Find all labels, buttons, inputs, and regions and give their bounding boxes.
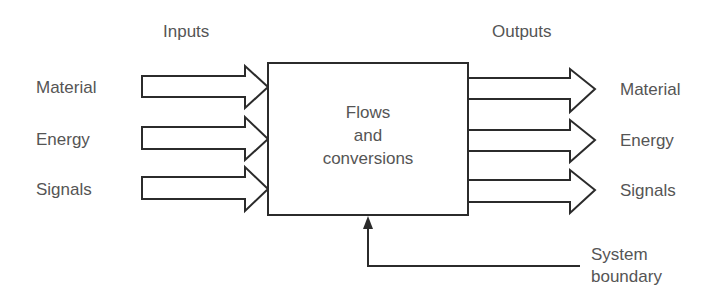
input-arrow-signals-icon bbox=[142, 167, 268, 211]
output-arrow-signals-icon bbox=[462, 170, 595, 213]
boundary-label-line-2: boundary bbox=[591, 267, 662, 286]
boundary-arrowhead-icon bbox=[363, 216, 373, 229]
boundary-leader-line bbox=[368, 226, 580, 266]
boundary-label-line-1: System bbox=[591, 245, 648, 264]
input-label-material: Material bbox=[36, 78, 96, 97]
output-arrow-energy-icon bbox=[462, 120, 595, 162]
box-text-line-1: Flows bbox=[346, 103, 390, 122]
outputs-header: Outputs bbox=[492, 22, 552, 41]
output-label-material: Material bbox=[620, 80, 680, 99]
inputs-header: Inputs bbox=[163, 22, 209, 41]
input-arrow-energy-icon bbox=[142, 117, 268, 160]
output-arrow-material-icon bbox=[462, 69, 595, 112]
box-text-line-2: and bbox=[354, 126, 382, 145]
input-label-energy: Energy bbox=[36, 130, 90, 149]
input-arrow-material-icon bbox=[142, 66, 268, 108]
box-text-line-3: conversions bbox=[323, 149, 414, 168]
system-flow-diagram: Inputs Outputs Material Energy Signals F… bbox=[0, 0, 720, 301]
output-label-energy: Energy bbox=[620, 131, 674, 150]
input-label-signals: Signals bbox=[36, 180, 92, 199]
output-label-signals: Signals bbox=[620, 181, 676, 200]
